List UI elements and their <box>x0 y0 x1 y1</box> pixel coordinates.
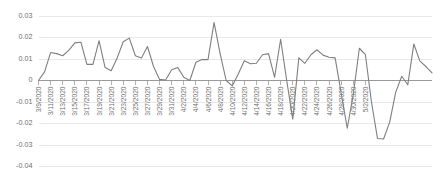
x-axis-tick-label: 3/15/2020 <box>71 86 78 116</box>
x-axis-tick-label: 3/25/2020 <box>132 86 139 116</box>
x-axis-labels-group: 3/9/20203/11/20203/13/20203/15/20203/17/… <box>35 86 369 116</box>
x-axis-tick-label: 4/10/2020 <box>229 86 236 116</box>
y-axis-tick-label: 0.02 <box>19 32 33 41</box>
x-axis-tick-label: 3/31/2020 <box>168 86 175 116</box>
y-axis-tick-label: 0.03 <box>19 11 33 20</box>
x-axis-tick-label: 4/4/2020 <box>192 86 199 112</box>
y-axis-tick-label: -0.04 <box>16 161 32 170</box>
x-axis-tick-label: 4/12/2020 <box>241 86 248 116</box>
y-axis-tick-label: -0.02 <box>16 118 32 127</box>
x-axis-tick-label: 4/16/2020 <box>265 86 272 116</box>
x-axis-tick-label: 3/29/2020 <box>156 86 163 116</box>
x-axis-tick-label: 3/19/2020 <box>96 86 103 116</box>
x-axis-tick-label: 3/9/2020 <box>35 86 42 112</box>
x-axis-tick-label: 4/8/2020 <box>217 86 224 112</box>
line-chart: 0.030.020.010-0.01-0.02-0.03-0.04 3/9/20… <box>0 0 443 186</box>
x-axis-tick-label: 3/21/2020 <box>108 86 115 116</box>
chart-container: 0.030.020.010-0.01-0.02-0.03-0.04 3/9/20… <box>0 0 443 186</box>
y-axis-tick-label: 0.01 <box>19 54 33 63</box>
x-axis-tick-label: 4/14/2020 <box>253 86 260 116</box>
x-axis-tick-label: 3/27/2020 <box>144 86 151 116</box>
x-axis-tick-label: 4/2/2020 <box>180 86 187 112</box>
x-axis-tick-label: 4/22/2020 <box>301 86 308 116</box>
y-axis-tick-label: -0.03 <box>16 140 32 149</box>
x-axis-tick-label: 3/17/2020 <box>83 86 90 116</box>
y-axis-tick-label: 0 <box>29 75 33 84</box>
y-axis-labels-group: 0.030.020.010-0.01-0.02-0.03-0.04 <box>16 11 32 171</box>
x-axis-tick-label: 4/26/2020 <box>326 86 333 116</box>
x-axis-tick-label: 4/6/2020 <box>205 86 212 112</box>
y-axis-tick-label: -0.01 <box>16 97 32 106</box>
x-axis-tick-label: 4/24/2020 <box>313 86 320 116</box>
x-axis-ticks-group <box>39 81 366 85</box>
x-axis-tick-label: 3/11/2020 <box>47 86 54 115</box>
x-axis-tick-label: 4/18/2020 <box>277 86 284 116</box>
x-axis-tick-label: 3/23/2020 <box>120 86 127 116</box>
x-axis-tick-label: 5/2/2020 <box>362 86 369 112</box>
x-axis-tick-label: 3/13/2020 <box>59 86 66 116</box>
